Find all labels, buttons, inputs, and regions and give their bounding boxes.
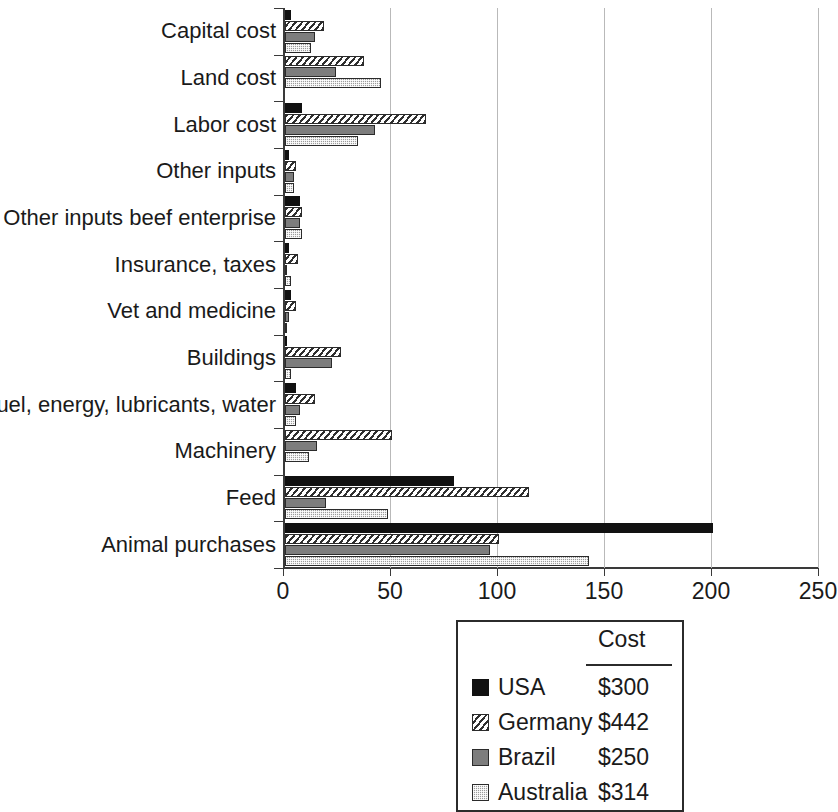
bar-usa xyxy=(285,476,454,486)
bar-australia xyxy=(285,43,311,53)
legend-cost-value: $300 xyxy=(598,674,649,701)
legend-swatch-brazil-icon xyxy=(472,749,489,766)
bar-germany xyxy=(285,347,341,357)
bar-australia xyxy=(285,509,388,519)
bar-usa xyxy=(285,290,291,300)
category-label: Vet and medicine xyxy=(107,298,276,324)
bar-brazil xyxy=(285,32,315,42)
bar-australia xyxy=(285,416,296,426)
chart-row: Buildings xyxy=(0,335,838,382)
bar-brazil xyxy=(285,312,289,322)
category-label: Labor cost xyxy=(173,112,276,138)
bar-group xyxy=(285,196,302,240)
category-label: Capital cost xyxy=(161,18,276,44)
category-label: Fuel, energy, lubricants, water xyxy=(0,392,276,418)
bar-australia xyxy=(285,276,291,286)
bar-group xyxy=(285,476,529,520)
x-tick-100 xyxy=(497,568,498,576)
bar-germany xyxy=(285,21,324,31)
chart-row: Labor cost xyxy=(0,101,838,148)
legend-row: Germany$442 xyxy=(472,705,676,739)
legend-header-rule xyxy=(586,664,672,666)
bar-germany xyxy=(285,534,499,544)
bar-germany xyxy=(285,207,302,217)
bar-group xyxy=(285,243,298,287)
legend-swatch-usa-icon xyxy=(472,679,489,696)
legend-cost-value: $314 xyxy=(598,779,649,806)
bar-germany xyxy=(285,56,364,66)
bar-group xyxy=(285,103,426,147)
bar-brazil xyxy=(285,67,336,77)
bar-brazil xyxy=(285,218,300,228)
chart-row: Insurance, taxes xyxy=(0,241,838,288)
legend-header-cost: Cost xyxy=(598,626,645,653)
bar-usa xyxy=(285,383,296,393)
bar-germany xyxy=(285,114,426,124)
bar-brazil xyxy=(285,545,490,555)
bar-australia xyxy=(285,183,294,193)
legend: Cost USA$300Germany$442Brazil$250Austral… xyxy=(456,620,684,812)
cost-comparison-bar-chart: 050100150200250 Capital costLand costLab… xyxy=(0,0,838,812)
bar-group xyxy=(285,523,713,567)
category-label: Feed xyxy=(226,485,276,511)
bar-brazil xyxy=(285,441,317,451)
bar-germany xyxy=(285,430,392,440)
chart-row: Other inputs beef enterprise xyxy=(0,195,838,242)
legend-row: USA$300 xyxy=(472,670,676,704)
bar-group xyxy=(285,430,392,463)
x-tick-0 xyxy=(283,568,284,576)
bar-brazil xyxy=(285,405,300,415)
category-label: Animal purchases xyxy=(101,532,276,558)
chart-row: Fuel, energy, lubricants, water xyxy=(0,381,838,428)
bar-australia xyxy=(285,229,302,239)
chart-row: Other inputs xyxy=(0,148,838,195)
legend-cost-value: $250 xyxy=(598,744,649,771)
x-tick-label-0: 0 xyxy=(277,578,290,605)
bar-group xyxy=(285,290,296,334)
x-tick-label-100: 100 xyxy=(478,578,516,605)
bar-australia xyxy=(285,369,291,379)
bar-group xyxy=(285,383,315,427)
bar-brazil xyxy=(285,498,326,508)
legend-series-name: Australia xyxy=(498,779,587,806)
x-tick-label-50: 50 xyxy=(377,578,403,605)
chart-row: Feed xyxy=(0,475,838,522)
bar-brazil xyxy=(285,265,287,275)
legend-series-name: Germany xyxy=(498,709,593,736)
x-tick-250 xyxy=(818,568,819,576)
bar-group xyxy=(285,150,296,194)
bar-usa xyxy=(285,196,300,206)
bar-usa xyxy=(285,523,713,533)
bar-germany xyxy=(285,254,298,264)
category-label: Other inputs xyxy=(156,158,276,184)
bar-usa xyxy=(285,150,289,160)
bar-usa xyxy=(285,10,291,20)
category-label: Insurance, taxes xyxy=(115,252,276,278)
x-tick-50 xyxy=(390,568,391,576)
legend-cost-value: $442 xyxy=(598,709,649,736)
chart-row: Land cost xyxy=(0,55,838,102)
bar-brazil xyxy=(285,172,294,182)
bar-usa xyxy=(285,103,302,113)
x-tick-label-250: 250 xyxy=(799,578,837,605)
y-tick-end xyxy=(274,568,283,569)
legend-swatch-australia-icon xyxy=(472,784,489,801)
x-tick-label-200: 200 xyxy=(692,578,730,605)
category-label: Other inputs beef enterprise xyxy=(3,205,276,231)
bar-germany xyxy=(285,301,296,311)
x-tick-200 xyxy=(711,568,712,576)
legend-row: Australia$314 xyxy=(472,775,676,809)
chart-row: Vet and medicine xyxy=(0,288,838,335)
bar-australia xyxy=(285,452,309,462)
chart-row: Animal purchases xyxy=(0,521,838,568)
x-tick-label-150: 150 xyxy=(585,578,623,605)
legend-series-name: Brazil xyxy=(498,744,556,771)
bar-group xyxy=(285,10,324,54)
bar-germany xyxy=(285,161,296,171)
x-tick-150 xyxy=(604,568,605,576)
bar-australia xyxy=(285,323,287,333)
bar-australia xyxy=(285,556,589,566)
legend-series-name: USA xyxy=(498,674,545,701)
bar-usa xyxy=(285,243,289,253)
bar-usa xyxy=(285,336,287,346)
